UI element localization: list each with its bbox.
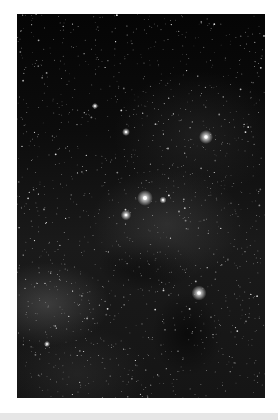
star (254, 42, 255, 43)
star (86, 170, 87, 171)
star (237, 268, 238, 269)
star (209, 176, 210, 177)
star (233, 119, 234, 120)
star (95, 118, 96, 119)
star (147, 395, 148, 396)
star (211, 87, 212, 88)
star (99, 209, 100, 210)
star (160, 238, 161, 239)
star (143, 78, 144, 79)
star (170, 198, 171, 199)
star (210, 188, 211, 189)
star (50, 260, 51, 261)
star (26, 112, 27, 113)
star (195, 394, 196, 395)
star (216, 200, 217, 201)
star (233, 183, 234, 184)
star (137, 63, 138, 64)
star (236, 344, 237, 345)
star (60, 307, 61, 308)
star (76, 204, 77, 205)
star (168, 98, 169, 99)
star (128, 374, 129, 375)
star (199, 85, 200, 86)
star (59, 107, 60, 108)
star (236, 383, 237, 384)
star (217, 262, 218, 263)
star (85, 338, 86, 339)
star (201, 339, 202, 340)
star (256, 330, 257, 331)
star (28, 107, 29, 108)
star (38, 227, 39, 228)
star (65, 218, 66, 219)
star (211, 285, 212, 286)
star (145, 188, 146, 189)
star (105, 174, 106, 175)
star (35, 313, 36, 314)
star (172, 165, 173, 166)
star (127, 161, 128, 162)
star (142, 113, 143, 114)
star (35, 172, 36, 173)
star (95, 54, 96, 55)
star (240, 36, 241, 37)
star (171, 351, 172, 352)
star (144, 30, 145, 31)
star (126, 110, 127, 111)
star (192, 139, 193, 140)
star (64, 23, 65, 24)
star (201, 384, 202, 385)
star (103, 287, 104, 288)
star (110, 359, 111, 360)
star (72, 394, 73, 395)
star (64, 162, 65, 163)
star (49, 352, 50, 353)
star (246, 44, 247, 45)
star (128, 280, 129, 281)
star (213, 127, 214, 128)
star (71, 176, 72, 177)
star (228, 204, 229, 205)
star (132, 89, 133, 90)
star (140, 253, 141, 254)
star (250, 126, 251, 127)
star (260, 33, 261, 34)
star (39, 300, 40, 301)
star (78, 148, 79, 149)
star (173, 96, 174, 97)
star (61, 115, 62, 116)
star (150, 171, 151, 172)
star (66, 342, 67, 343)
star (46, 252, 47, 253)
star (25, 279, 26, 280)
star (158, 64, 159, 65)
star (152, 215, 153, 216)
star (67, 146, 68, 147)
star (245, 151, 246, 152)
star (131, 157, 132, 158)
star (96, 223, 97, 224)
star (141, 385, 142, 386)
star (37, 313, 38, 314)
star (93, 16, 94, 17)
star (240, 375, 241, 376)
star (141, 54, 142, 55)
star (240, 305, 241, 306)
star (185, 272, 186, 273)
star (29, 145, 30, 146)
star (149, 60, 150, 61)
star (212, 65, 213, 66)
star (53, 188, 54, 189)
star (105, 301, 106, 302)
star (143, 358, 144, 359)
star (31, 20, 32, 21)
star (151, 181, 152, 182)
star (197, 146, 198, 147)
star (185, 37, 186, 38)
star (130, 294, 131, 295)
star (41, 64, 42, 65)
star (35, 352, 36, 353)
star (163, 134, 164, 135)
star (187, 102, 188, 103)
